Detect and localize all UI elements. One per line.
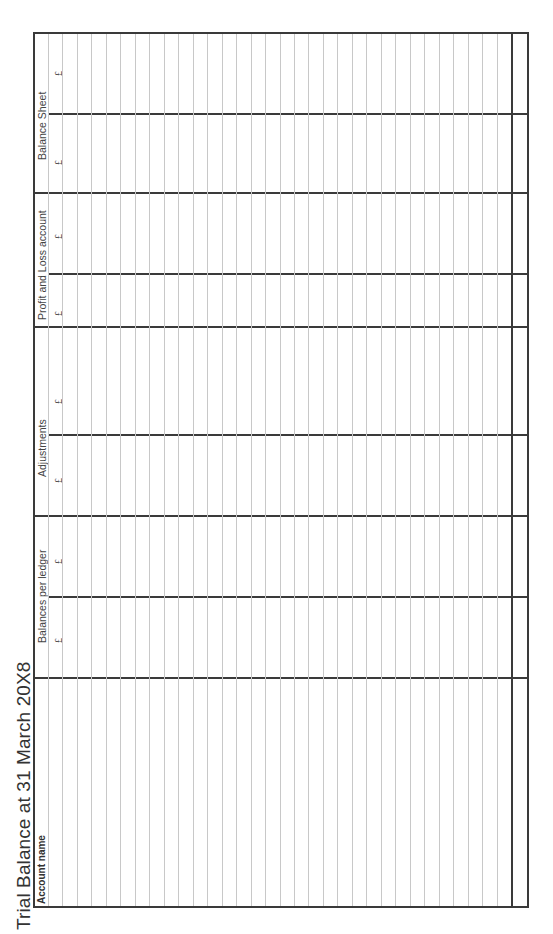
table-row-line xyxy=(366,34,367,906)
table-row-line xyxy=(91,34,92,906)
column-header-account-name: Account name xyxy=(36,835,47,904)
table-row-line xyxy=(236,34,237,906)
table-row-line xyxy=(77,34,78,906)
table-row-line xyxy=(135,34,136,906)
table-row-line xyxy=(468,34,469,906)
table-row-line xyxy=(149,34,150,906)
table-row-line xyxy=(62,34,63,906)
table-row-line xyxy=(439,34,440,906)
table-row-line xyxy=(453,34,454,906)
totals-row-divider xyxy=(511,34,513,906)
table-row-line xyxy=(106,34,107,906)
group-label-adjustments: Adjustments xyxy=(36,419,48,477)
table-row-line xyxy=(120,34,121,906)
table-row-line xyxy=(482,34,483,906)
table-row-line xyxy=(193,34,194,906)
trial-balance-table: Balance Sheet Profit and Loss account Ad… xyxy=(33,32,529,908)
table-row-line xyxy=(265,34,266,906)
table-row-line xyxy=(294,34,295,906)
table-row-line xyxy=(497,34,498,906)
group-label-profit-loss: Profit and Loss account xyxy=(36,210,48,320)
table-row-line xyxy=(178,34,179,906)
table-row-line xyxy=(222,34,223,906)
table-row-line xyxy=(381,34,382,906)
table-row-line xyxy=(48,34,49,906)
table-row-line xyxy=(337,34,338,906)
table-row-line xyxy=(395,34,396,906)
table-row-line xyxy=(410,34,411,906)
table-row-line xyxy=(207,34,208,906)
table-row-line xyxy=(280,34,281,906)
table-row-line xyxy=(251,34,252,906)
table-row-line xyxy=(424,34,425,906)
table-row-line xyxy=(352,34,353,906)
table-row-line xyxy=(323,34,324,906)
table-row-line xyxy=(164,34,165,906)
group-label-balance-sheet: Balance Sheet xyxy=(36,92,48,160)
table-row-line xyxy=(308,34,309,906)
group-label-balances-per-ledger: Balances per ledger xyxy=(36,550,48,643)
page-title: Trial Balance at 31 March 20X8 xyxy=(13,662,35,930)
